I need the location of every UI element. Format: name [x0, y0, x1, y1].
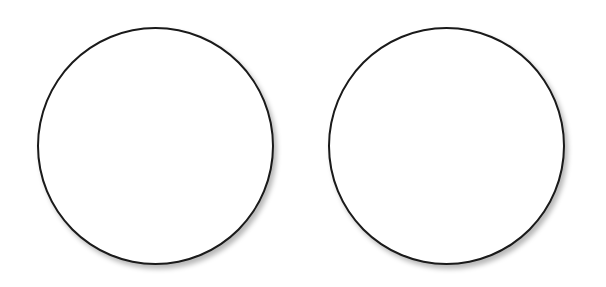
- left-circle-shape: [37, 27, 274, 265]
- right-circle-shape: [328, 27, 565, 265]
